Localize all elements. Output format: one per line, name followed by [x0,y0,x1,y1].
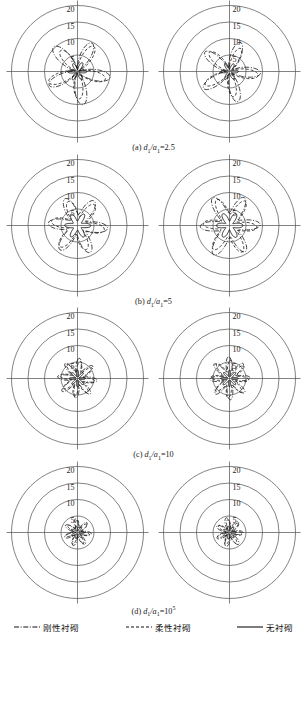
tick-label-15: 15 [67,482,75,491]
legend-label: 无衬砌 [266,621,293,633]
tick-label-5: 5 [71,208,75,217]
radial-tick-labels: 5101520 [233,5,241,64]
plot-row-c: 51015205101520 [0,307,307,450]
polar-plot-d-right: 5101520 [158,461,301,604]
tick-label-5: 5 [71,515,75,524]
panel-caption-d: (d) d1/a1=105 [0,605,307,617]
tick-label-15: 15 [67,22,75,31]
legend-label: 刚性衬砌 [43,621,79,633]
tick-label-5: 5 [233,515,237,524]
plot-row-d: 51015205101520 [0,461,307,604]
tick-label-20: 20 [233,466,241,475]
polar-curves [203,42,260,101]
tick-label-5: 5 [233,208,237,217]
tick-label-5: 5 [233,55,237,64]
legend-line-dashed [126,623,152,631]
tick-label-5: 5 [71,362,75,371]
legend-item-no-lining: 无衬砌 [237,621,293,633]
tick-label-15: 15 [233,22,241,31]
figure-polar-plots: 51015205101520(a) d1/a1=2.55101520510152… [0,0,307,727]
polar-axes [7,154,149,296]
tick-label-20: 20 [67,312,75,321]
curve-dash-dot [203,42,260,101]
radial-tick-labels: 5101520 [233,159,241,218]
legend-item-rigid-lining: 刚性衬砌 [14,621,79,633]
panel-caption-a: (a) d1/a1=2.5 [0,144,307,154]
polar-plot-c-right: 5101520 [158,307,301,450]
polar-axes [7,461,149,603]
tick-label-20: 20 [233,312,241,321]
polar-curves [49,43,110,105]
tick-label-15: 15 [233,482,241,491]
panel-c: 51015205101520(c) d1/a1=10 [0,307,307,461]
tick-label-10: 10 [67,38,75,47]
legend-item-flexible-lining: 柔性衬砌 [126,621,191,633]
tick-label-10: 10 [233,192,241,201]
legend-line-solid [237,623,263,631]
tick-label-15: 15 [67,329,75,338]
plot-row-a: 51015205101520 [0,0,307,143]
polar-plot-a-right: 5101520 [158,0,301,143]
radial-tick-labels: 5101520 [233,466,241,525]
tick-label-15: 15 [233,329,241,338]
panel-d: 51015205101520(d) d1/a1=105 [0,461,307,617]
polar-plot-c-left: 5101520 [6,307,149,450]
polar-axes [159,461,301,603]
panel-caption-c: (c) d1/a1=10 [0,451,307,461]
tick-label-20: 20 [67,159,75,168]
legend: 刚性衬砌柔性衬砌无衬砌 [0,617,307,633]
tick-label-10: 10 [233,38,241,47]
polar-plot-a-left: 5101520 [6,0,149,143]
panel-a: 51015205101520(a) d1/a1=2.5 [0,0,307,154]
polar-axes [159,1,301,143]
radial-tick-labels: 5101520 [67,159,75,218]
polar-plot-b-right: 5101520 [158,154,301,297]
legend-label: 柔性衬砌 [155,621,191,633]
radial-tick-labels: 5101520 [233,312,241,371]
radial-tick-labels: 5101520 [67,312,75,371]
curve-dashed [49,46,106,99]
tick-label-5: 5 [233,362,237,371]
polar-axes [7,1,149,143]
polar-plot-d-left: 5101520 [6,461,149,604]
tick-label-10: 10 [67,345,75,354]
panel-b: 51015205101520(b) d1/a1=5 [0,154,307,308]
tick-label-15: 15 [233,175,241,184]
polar-curves [200,197,260,255]
tick-label-20: 20 [233,5,241,14]
tick-label-10: 10 [67,499,75,508]
plot-row-b: 51015205101520 [0,154,307,297]
radial-tick-labels: 5101520 [67,5,75,64]
radial-tick-labels: 5101520 [67,466,75,525]
tick-label-5: 5 [71,55,75,64]
polar-axes [159,308,301,450]
tick-label-10: 10 [233,345,241,354]
tick-label-10: 10 [67,192,75,201]
tick-label-20: 20 [233,159,241,168]
polar-axes [7,308,149,450]
polar-axes [159,154,301,296]
polar-plot-b-left: 5101520 [6,154,149,297]
tick-label-20: 20 [67,466,75,475]
tick-label-10: 10 [233,499,241,508]
legend-line-dash-dot [14,623,40,631]
tick-label-15: 15 [67,175,75,184]
tick-label-20: 20 [67,5,75,14]
curve-dash-dot [200,197,260,255]
panel-caption-b: (b) d1/a1=5 [0,298,307,308]
